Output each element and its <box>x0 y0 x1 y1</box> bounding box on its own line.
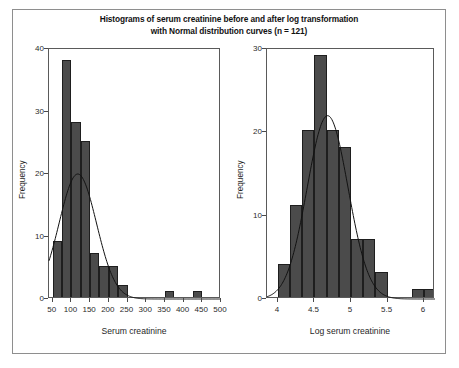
x-axis-tick-mark <box>220 298 221 302</box>
y-axis-tick-label: 0 <box>240 294 262 303</box>
normal-curve-serum-creatinine <box>49 49 221 299</box>
x-axis-tick-mark <box>164 298 165 302</box>
y-axis-tick-mark <box>44 111 48 112</box>
x-axis-tick-label: 4.5 <box>308 305 319 314</box>
y-axis-tick-mark <box>262 298 266 299</box>
figure-container: Histograms of serum creatinine before an… <box>0 0 459 368</box>
x-axis-tick-label: 50 <box>47 305 56 314</box>
x-axis-tick-mark <box>145 298 146 302</box>
y-axis-tick-label: 10 <box>240 210 262 219</box>
x-axis-tick-label: 5.5 <box>381 305 392 314</box>
normal-distribution-curve <box>267 116 435 299</box>
x-axis-tick-mark <box>127 298 128 302</box>
x-axis-tick-mark <box>183 298 184 302</box>
x-axis-tick-mark <box>313 298 314 302</box>
x-axis-tick-mark <box>89 298 90 302</box>
y-axis-label-serum-creatinine: Frequency <box>18 160 27 199</box>
y-axis-tick-mark <box>44 298 48 299</box>
x-axis-tick-mark <box>70 298 71 302</box>
y-axis-tick-mark <box>44 236 48 237</box>
x-axis-tick-label: 500 <box>213 305 226 314</box>
x-axis-tick-mark <box>350 298 351 302</box>
chart-panel-log-serum-creatinine: 0102030 44.555.56 Frequency Log serum cr… <box>228 40 444 350</box>
x-axis-tick-label: 150 <box>82 305 95 314</box>
y-axis-tick-label: 40 <box>22 44 44 53</box>
normal-curve-log-serum-creatinine <box>267 49 435 299</box>
x-axis-tick-label: 5 <box>348 305 352 314</box>
y-axis-tick-label: 0 <box>22 294 44 303</box>
y-axis-tick-label: 10 <box>22 231 44 240</box>
x-axis-tick-mark <box>387 298 388 302</box>
y-axis-tick-label: 20 <box>240 127 262 136</box>
x-axis-tick-label: 450 <box>195 305 208 314</box>
plot-area-log-serum-creatinine <box>266 48 434 298</box>
x-axis-tick-label: 200 <box>101 305 114 314</box>
y-axis-label-log-serum-creatinine: Frequency <box>236 160 245 199</box>
x-axis-tick-mark <box>201 298 202 302</box>
x-axis-label-serum-creatinine: Serum creatinine <box>48 326 220 336</box>
y-axis-tick-mark <box>44 173 48 174</box>
figure-title-line-2: with Normal distribution curves (n = 121… <box>18 26 440 38</box>
x-axis-tick-label: 400 <box>176 305 189 314</box>
x-axis-tick-mark <box>108 298 109 302</box>
x-axis-tick-label: 4 <box>275 305 279 314</box>
y-axis-tick-mark <box>262 48 266 49</box>
plot-area-serum-creatinine <box>48 48 220 298</box>
y-axis-tick-mark <box>262 131 266 132</box>
x-axis-label-log-serum-creatinine: Log serum creatinine <box>266 326 434 336</box>
y-axis-tick-mark <box>44 48 48 49</box>
y-axis-tick-label: 30 <box>240 44 262 53</box>
x-axis-tick-label: 6 <box>421 305 425 314</box>
y-axis-tick-mark <box>262 215 266 216</box>
x-axis-tick-mark <box>52 298 53 302</box>
figure-title: Histograms of serum creatinine before an… <box>18 14 440 37</box>
x-axis-tick-label: 300 <box>139 305 152 314</box>
x-axis-tick-mark <box>277 298 278 302</box>
x-axis-tick-label: 250 <box>120 305 133 314</box>
x-axis-tick-label: 100 <box>64 305 77 314</box>
normal-distribution-curve <box>49 174 221 299</box>
figure-title-line-1: Histograms of serum creatinine before an… <box>18 14 440 26</box>
y-axis-tick-label: 30 <box>22 106 44 115</box>
chart-panel-serum-creatinine: 010203040 50100150200250300350400450500 … <box>14 40 230 350</box>
x-axis-tick-label: 350 <box>157 305 170 314</box>
x-axis-tick-mark <box>423 298 424 302</box>
